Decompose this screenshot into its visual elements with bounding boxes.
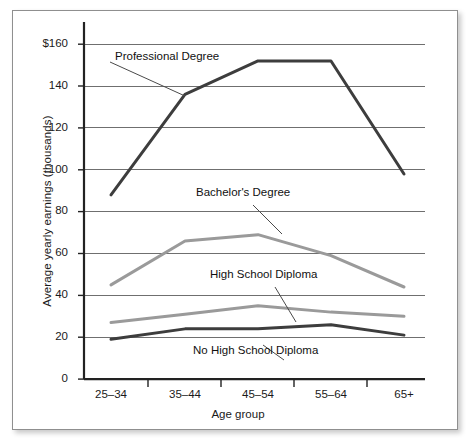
x-tick-label-35-44: 35–44 <box>148 388 222 400</box>
annotation-bachelors-degree: Bachelor's Degree <box>196 186 290 198</box>
y-tick-label-160: $160 <box>22 37 68 49</box>
y-tick-label-100: 100 <box>22 163 68 175</box>
annotation-professional-degree: Professional Degree <box>115 50 219 62</box>
annotation-leader-lines <box>110 62 296 360</box>
leader-professional <box>110 62 185 96</box>
x-tick-label-45-54: 45–54 <box>221 388 295 400</box>
annotation-high-school-diploma: High School Diploma <box>210 268 317 280</box>
line-chart-plot <box>0 0 476 447</box>
y-tick-label-60: 60 <box>22 246 68 258</box>
chart-figure: Average yearly earnings (thousands) Age … <box>0 0 476 447</box>
y-tick-label-120: 120 <box>22 121 68 133</box>
x-axis-label: Age group <box>0 408 476 420</box>
y-tick-label-80: 80 <box>22 204 68 216</box>
annotation-no-high-school-diploma: No High School Diploma <box>193 344 318 356</box>
y-tick-label-0: 0 <box>22 372 68 384</box>
x-tick-label-25-34: 25–34 <box>74 388 148 400</box>
y-tick-label-20: 20 <box>22 330 68 342</box>
leader-bachelors <box>253 205 282 234</box>
y-tick-label-40: 40 <box>22 288 68 300</box>
x-tick-label-55-64: 55–64 <box>294 388 368 400</box>
y-tick-label-140: 140 <box>22 79 68 91</box>
series-line-high-school-diploma <box>111 306 404 323</box>
x-tick-label-65plus: 65+ <box>367 388 441 400</box>
leader-highschool <box>275 287 296 322</box>
